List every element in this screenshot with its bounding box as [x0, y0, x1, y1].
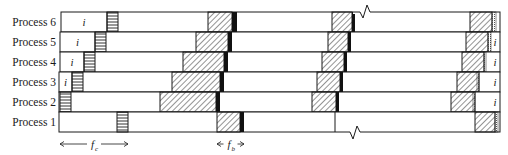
- dotted-strip: [484, 52, 486, 72]
- hatched-block: [183, 52, 224, 72]
- interval-annotation: fb: [217, 138, 244, 153]
- process-row: ii: [60, 52, 500, 72]
- black-bar: [240, 112, 244, 132]
- tail-label: i: [493, 96, 496, 108]
- black-bar: [224, 52, 228, 72]
- ladder-block: [60, 92, 71, 112]
- process-row: [59, 112, 500, 139]
- hatched-block: [332, 12, 352, 32]
- hatched-block: [160, 92, 216, 112]
- dotted-strip: [488, 32, 491, 52]
- black-bar: [220, 72, 224, 92]
- tail-label: i: [493, 36, 496, 48]
- black-bar: [348, 32, 351, 52]
- row-frame: [60, 32, 500, 52]
- hatched-block: [466, 32, 488, 52]
- row-frame: [61, 12, 500, 32]
- hatched-block: [451, 92, 475, 112]
- init-label: i: [64, 76, 67, 88]
- black-bar: [216, 92, 220, 112]
- black-bar: [232, 12, 237, 32]
- hatched-block: [172, 72, 220, 92]
- hatched-block: [217, 112, 240, 132]
- dotted-strip: [477, 72, 479, 92]
- init-label: i: [82, 16, 85, 28]
- black-bar: [336, 92, 339, 112]
- hatched-block: [312, 92, 336, 112]
- interval-annotation: fc: [60, 138, 128, 153]
- timeline-canvas: iiiiiiii fcfb: [0, 0, 508, 155]
- black-bar: [344, 52, 347, 72]
- hatched-block: [470, 12, 492, 32]
- init-label: i: [70, 56, 73, 68]
- tail-label: i: [493, 76, 496, 88]
- process-row: ii: [60, 32, 500, 52]
- process-timeline-diagram: Process 6 Process 5 Process 4 Process 3 …: [0, 0, 508, 155]
- black-bar: [340, 72, 343, 92]
- hatched-block: [322, 52, 344, 72]
- hatched-block: [457, 72, 479, 92]
- hatched-block: [317, 72, 340, 92]
- row-frame: [59, 92, 500, 112]
- ladder-block: [72, 72, 83, 92]
- hatched-block: [328, 32, 348, 52]
- hatched-block: [475, 112, 495, 132]
- tail-label: i: [493, 56, 496, 68]
- ladder-block: [117, 112, 128, 132]
- process-row: ii: [59, 72, 500, 92]
- black-bar: [228, 32, 232, 52]
- row-frame: [60, 52, 500, 72]
- ladder-block: [84, 52, 95, 72]
- black-bar: [352, 12, 355, 32]
- ladder-block: [95, 32, 106, 52]
- process-row: i: [59, 92, 500, 112]
- init-label: i: [76, 36, 79, 48]
- annotations-layer: fcfb: [60, 138, 244, 153]
- hatched-block: [208, 12, 232, 32]
- annotation-subscript: b: [232, 145, 236, 153]
- hatched-block: [196, 32, 228, 52]
- row-frame: [59, 72, 500, 92]
- process-row: i: [61, 5, 500, 32]
- dotted-strip: [495, 112, 498, 132]
- dotted-strip: [492, 12, 496, 32]
- ladder-block: [107, 12, 118, 32]
- rows-layer: iiiiiiii: [59, 5, 500, 139]
- hatched-block: [462, 52, 484, 72]
- annotation-subscript: c: [95, 145, 99, 153]
- dotted-strip: [473, 92, 475, 112]
